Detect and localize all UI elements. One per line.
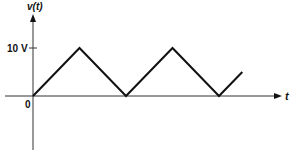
peak-label: 10 V: [7, 43, 28, 54]
x-axis-label: t: [285, 90, 290, 102]
y-axis-label: v(t): [27, 1, 43, 12]
waveform-diagram: v(t) t 0 10 V: [0, 0, 294, 157]
origin-label: 0: [25, 99, 31, 110]
waveform-plot: v(t) t 0 10 V: [0, 0, 294, 157]
y-axis-arrow-icon: [30, 14, 36, 22]
x-axis-arrow-icon: [274, 93, 282, 99]
triangle-waveform: [33, 48, 242, 96]
